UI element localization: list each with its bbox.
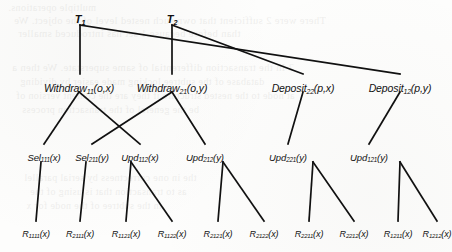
node-arguments: (y) (213, 152, 224, 163)
node-subscript: 221 (286, 156, 296, 163)
tree-edge-w21-to-upd212 (172, 92, 205, 144)
tree-edge-upd212-to-r2121 (218, 162, 223, 221)
node-subscript: 211 (89, 156, 98, 163)
tree-edge-upd121-to-r1212 (400, 162, 437, 221)
leaf-node-r1111: R1111(x) (22, 230, 50, 240)
node-base-text: Deposit (272, 82, 307, 94)
leaf-node-r2212: R2212(x) (339, 230, 368, 240)
transaction-tree-figure: multiple operations.There were 2 suffici… (0, 0, 452, 252)
node-subscript: 121 (367, 156, 377, 163)
transaction-node-t2: T2 (167, 14, 177, 26)
node-arguments: (y) (377, 152, 388, 163)
node-base-text: Withdraw (44, 82, 87, 94)
leaf-node-r2211: R2211(x) (295, 230, 324, 240)
node-base-text: Sel (27, 152, 40, 163)
subop-node-upd112: Upd112(x) (121, 153, 158, 164)
node-arguments: (x) (313, 229, 323, 239)
node-subscript: 11 (87, 88, 94, 95)
node-arguments: (x) (130, 229, 140, 239)
tree-edge-upd221-to-r2212 (313, 162, 354, 221)
leaf-node-r1122: R1122(x) (158, 230, 187, 240)
subop-node-upd121: Upd121(y) (350, 153, 388, 164)
operation-node-d22: Deposit22(p,x) (272, 83, 335, 95)
transaction-node-t1: T1 (75, 14, 85, 26)
node-base-text: T (75, 13, 82, 25)
tree-edges-svg (0, 0, 452, 252)
node-subscript: 1122 (164, 233, 176, 239)
node-arguments: (y) (296, 152, 307, 163)
node-subscript: 112 (138, 156, 147, 163)
node-arguments: (x) (148, 152, 159, 163)
node-subscript: 2121 (210, 233, 222, 239)
tree-edge-d12-to-upd121 (369, 92, 400, 144)
node-subscript: 1 (81, 18, 85, 27)
leaf-node-r2111: R2111(x) (66, 230, 94, 240)
tree-edge-sel111-to-r1111 (36, 162, 41, 221)
tree-edge-sel211-to-r2111 (80, 162, 86, 221)
node-arguments: (x) (268, 229, 278, 239)
leaf-node-r2121: R2121(x) (203, 230, 232, 240)
node-arguments: (x) (40, 229, 50, 239)
node-subscript: 212 (203, 156, 213, 163)
tree-edge-d22-to-upd221 (288, 92, 303, 144)
node-arguments: (x) (441, 229, 451, 239)
operation-node-w11: Withdraw11(o,x) (44, 83, 114, 95)
leaf-node-r1211: R1211(x) (384, 230, 413, 240)
node-subscript: 1121 (118, 233, 130, 239)
node-subscript: 2212 (346, 233, 358, 239)
node-arguments: (x) (50, 152, 61, 163)
operation-node-w21: Withdraw21(o,y) (137, 83, 208, 95)
tree-edge-t2-to-d22 (172, 25, 303, 74)
node-subscript: 1212 (429, 233, 441, 239)
node-arguments: (o,y) (187, 82, 208, 94)
node-base-text: Upd (269, 152, 286, 163)
node-base-text: Upd (186, 152, 203, 163)
node-base-text: Withdraw (137, 82, 180, 94)
subop-node-upd221: Upd221(y) (269, 153, 307, 164)
operation-node-d12: Deposit12(p,y) (369, 83, 432, 95)
node-subscript: 2211 (301, 233, 313, 239)
tree-edge-upd212-to-r2122 (223, 162, 264, 221)
tree-edge-upd121-to-r1211 (398, 162, 400, 221)
node-arguments: (x) (402, 229, 412, 239)
node-arguments: (x) (358, 229, 368, 239)
node-arguments: (y) (98, 152, 109, 163)
node-base-text: T (167, 13, 174, 25)
node-subscript: 1211 (390, 233, 402, 239)
node-subscript: 1111 (29, 233, 40, 239)
leaf-node-r2122: R2122(x) (249, 230, 278, 240)
node-base-text: Sel (75, 152, 88, 163)
node-arguments: (x) (84, 229, 94, 239)
node-arguments: (x) (222, 229, 232, 239)
tree-edge-upd112-to-r1122 (131, 162, 172, 221)
node-base-text: Deposit (369, 82, 404, 94)
edge-group (36, 25, 437, 221)
tree-edge-upd221-to-r2211 (309, 162, 313, 221)
node-subscript: 2 (173, 18, 177, 27)
node-subscript: 2122 (256, 233, 268, 239)
tree-edge-t1-to-d12 (80, 25, 400, 74)
node-subscript: 2111 (72, 233, 84, 239)
node-base-text: Upd (121, 152, 138, 163)
node-arguments: (p,x) (314, 82, 335, 94)
tree-edge-w11-to-sel111 (44, 92, 79, 144)
leaf-node-r1121: R1121(x) (112, 230, 141, 240)
leaf-node-r1212: R1212(x) (422, 230, 451, 240)
subop-node-upd212: Upd212(y) (186, 153, 224, 164)
node-arguments: (p,y) (411, 82, 432, 94)
subop-node-sel111: Sel111(x) (27, 153, 60, 164)
tree-edge-upd112-to-r1121 (126, 162, 131, 221)
node-base-text: Upd (350, 152, 367, 163)
node-arguments: (x) (176, 229, 186, 239)
subop-node-sel211: Sel211(y) (75, 153, 109, 164)
node-arguments: (o,x) (94, 82, 115, 94)
